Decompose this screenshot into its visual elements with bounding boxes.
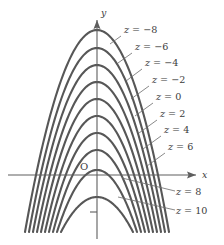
contour-labels-group: z = −8z = −6z = −4z = −2z = 0z = 2z = 4z… — [123, 24, 207, 216]
contour-label: z = 6 — [167, 141, 193, 152]
contour-label: z = 2 — [159, 108, 185, 119]
level-curves-figure: z = −8z = −6z = −4z = −2z = 0z = 2z = 4z… — [0, 0, 224, 245]
contour-label: z = −6 — [134, 41, 168, 52]
contour-label: z = −4 — [144, 57, 178, 68]
contour-label: z = 0 — [155, 91, 181, 102]
label-leader-line — [131, 86, 149, 99]
contour-label: z = 8 — [175, 186, 201, 197]
y-axis-label: y — [100, 7, 107, 18]
contour-plot-svg: z = −8z = −6z = −4z = −2z = 0z = 2z = 4z… — [0, 0, 224, 245]
origin-label: O — [80, 161, 88, 172]
contour-label: z = 4 — [163, 124, 189, 135]
contour-label: z = −2 — [151, 74, 185, 85]
contour-label: z = −8 — [123, 24, 157, 35]
contour-label: z = 10 — [175, 205, 207, 216]
x-axis-label: x — [202, 169, 208, 180]
